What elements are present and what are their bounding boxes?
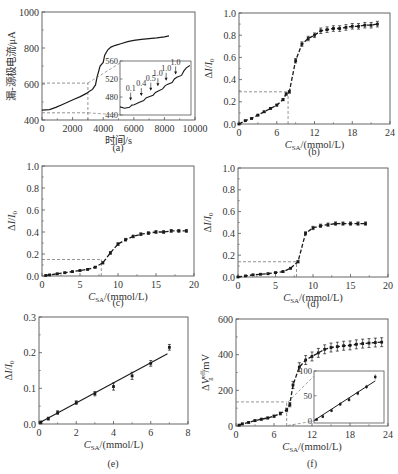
data-point (292, 384, 295, 387)
data-point (294, 59, 297, 62)
inset-y-tick-label: 100 (299, 366, 312, 376)
data-point (355, 343, 358, 346)
data-point (56, 272, 59, 275)
inset-data-point (315, 418, 317, 420)
data-point (288, 90, 291, 93)
data-point (244, 275, 247, 278)
y-tick-label: 0.4 (223, 228, 236, 239)
data-point (361, 342, 364, 345)
data-point (259, 273, 262, 276)
y-tick-label: 0.1 (24, 383, 37, 394)
y-tick-label: 0.0 (27, 271, 40, 282)
data-point (330, 346, 333, 349)
inset-y-tick-label: 440 (105, 110, 118, 120)
data-point (86, 268, 89, 271)
data-point (304, 232, 307, 235)
x-tick-label: 24 (383, 429, 393, 440)
data-point (71, 270, 74, 273)
panel-f-inset: 050100 (299, 366, 384, 426)
x-tick-label: 0 (40, 279, 45, 290)
data-point (312, 227, 315, 230)
data-point (79, 269, 82, 272)
data-point (301, 43, 304, 46)
y-tick-label: 1.0 (27, 161, 40, 172)
data-point (124, 238, 127, 241)
data-point (342, 344, 345, 347)
inset-y-tick-label: 480 (105, 92, 118, 102)
data-point (363, 24, 366, 27)
data-point (155, 231, 158, 234)
x-tick-label: 2000 (63, 123, 83, 134)
x-tick-label: 10 (113, 279, 123, 290)
inset-y-tick-label: 0 (308, 416, 312, 426)
data-point (177, 230, 180, 233)
x-tick-label: 4000 (93, 123, 113, 134)
data-point (323, 348, 326, 351)
x-tick-label: 5 (78, 279, 83, 290)
panel-label: (a) (112, 142, 123, 154)
figure-canvas: 02000400060008000100004006008001000时间/s漏… (0, 0, 398, 474)
data-point (48, 274, 51, 277)
data-point (275, 104, 278, 107)
y-tick-label: 0.0 (223, 272, 236, 283)
data-point (131, 374, 134, 377)
step-annotation: 0.1 (126, 84, 136, 93)
y-tick-label: 800 (24, 43, 39, 54)
y-tick-label: 0.4 (27, 227, 40, 238)
x-tick-label: 24 (385, 127, 395, 138)
data-point (117, 243, 120, 246)
step-annotation: 1.0 (171, 58, 181, 67)
data-point (250, 117, 253, 120)
data-point (139, 233, 142, 236)
data-point (168, 346, 171, 349)
data-point (285, 409, 288, 412)
data-point (238, 123, 241, 126)
y-tick-label: 600 (24, 79, 39, 90)
y-tick-label: 400 (24, 115, 39, 126)
data-point (357, 25, 360, 28)
data-point (351, 25, 354, 28)
x-tick-label: 4 (111, 427, 116, 438)
data-point (94, 266, 97, 269)
x-tick-label: 6000 (124, 123, 144, 134)
x-tick-label: 0 (236, 280, 241, 291)
data-point (336, 345, 339, 348)
data-point (334, 222, 337, 225)
data-point (380, 341, 383, 344)
data-point (297, 260, 300, 263)
data-point (101, 261, 104, 264)
inset-data-point (374, 376, 376, 378)
y-tick-label: 1.0 (224, 8, 237, 19)
data-point (289, 267, 292, 270)
inset-y-tick-label: 520 (105, 74, 118, 84)
data-point (376, 23, 379, 26)
data-point (349, 344, 352, 347)
data-point (319, 224, 322, 227)
data-point (266, 417, 269, 420)
data-point (304, 359, 307, 362)
data-point (338, 27, 341, 30)
inset-data-point (339, 403, 341, 405)
data-point (162, 231, 165, 234)
x-tick-label: 0 (40, 123, 45, 134)
y-axis-label: 漏-源极电流/μA (5, 31, 17, 101)
x-tick-label: 12 (310, 127, 320, 138)
data-point (345, 26, 348, 29)
x-tick-label: 15 (151, 279, 161, 290)
data-point (263, 110, 266, 113)
x-tick-label: 6 (272, 429, 277, 440)
data-point (285, 93, 288, 96)
data-point (311, 355, 314, 358)
x-tick-label: 8 (186, 427, 191, 438)
panel-label: (d) (307, 298, 319, 310)
panel-label: (e) (107, 458, 118, 470)
y-tick-label: 0.6 (224, 52, 237, 63)
data-point (44, 274, 47, 277)
data-point (238, 424, 241, 427)
data-point (241, 422, 244, 425)
y-tick-label: 0.2 (27, 249, 40, 260)
data-point (327, 223, 330, 226)
x-tick-label: 18 (345, 429, 355, 440)
inset-y-tick-label: 50 (304, 391, 313, 401)
data-point (237, 276, 240, 279)
